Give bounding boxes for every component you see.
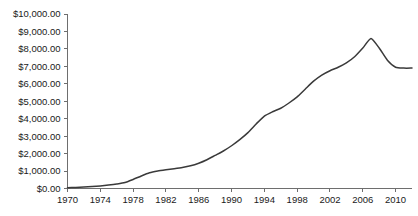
y-axis-tick-label: $9,000.00	[18, 26, 60, 37]
x-axis-tick-label: 2010	[385, 194, 406, 205]
y-axis-tick-label: $2,000.00	[18, 148, 60, 159]
chart-canvas: $0.00$1,000.00$2,000.00$3,000.00$4,000.0…	[0, 0, 418, 216]
y-axis-tick-label: $6,000.00	[18, 78, 60, 89]
y-axis-tick-label: $0.00	[37, 183, 61, 194]
x-axis-tick-label: 1998	[287, 194, 308, 205]
line-chart: $0.00$1,000.00$2,000.00$3,000.00$4,000.0…	[0, 0, 418, 216]
x-axis-tick-label: 1970	[57, 194, 78, 205]
y-axis-tick-label: $8,000.00	[18, 43, 60, 54]
x-axis-tick-label: 2006	[352, 194, 373, 205]
x-axis-tick-label: 1982	[155, 194, 176, 205]
x-axis-tick-label: 1978	[123, 194, 144, 205]
y-axis-tick-label: $3,000.00	[18, 131, 60, 142]
x-axis-tick-label: 1990	[221, 194, 242, 205]
x-axis-tick-label: 1994	[254, 194, 275, 205]
x-axis-tick-labels: 1970197419781982198619901994199820022006…	[57, 194, 406, 205]
y-axis-tick-label: $5,000.00	[18, 96, 60, 107]
y-axis-tick-labels: $0.00$1,000.00$2,000.00$3,000.00$4,000.0…	[13, 8, 61, 194]
y-axis-tick-marks	[64, 14, 68, 189]
x-axis-tick-label: 2002	[319, 194, 340, 205]
y-axis-tick-label: $7,000.00	[18, 61, 60, 72]
y-axis-tick-label: $4,000.00	[18, 113, 60, 124]
y-axis-tick-label: $1,000.00	[18, 165, 60, 176]
x-axis-tick-label: 1986	[188, 194, 209, 205]
x-axis-tick-label: 1974	[90, 194, 111, 205]
y-axis-tick-label: $10,000.00	[13, 8, 61, 19]
data-series-line	[68, 38, 413, 187]
